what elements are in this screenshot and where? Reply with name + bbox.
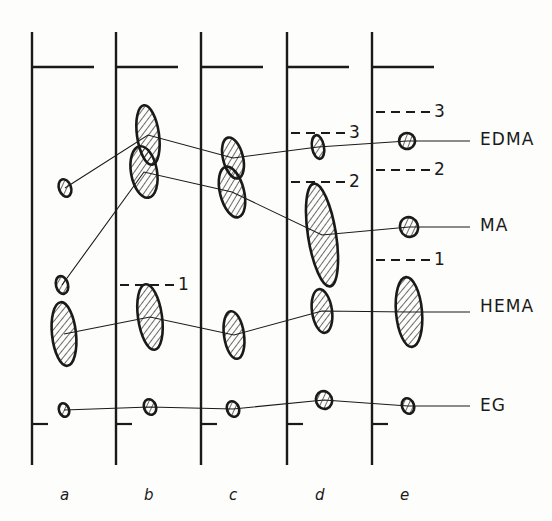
spot-MA-e — [397, 215, 421, 240]
analyte-label-hema: HEMA — [480, 296, 534, 316]
spot-EG-a — [57, 402, 71, 419]
lane-diagram-svg — [0, 0, 552, 521]
reference-dashes — [120, 112, 434, 285]
analyte-label-ma: MA — [480, 215, 509, 235]
spot-EG-b — [142, 397, 159, 416]
reference-number-e-3: 3 — [434, 101, 445, 121]
spot-group — [49, 104, 425, 419]
reference-number-d-2: 2 — [349, 171, 360, 191]
spot-HEMA-e — [393, 276, 425, 348]
spot-HEMA-b — [134, 283, 167, 352]
spot-EDMA-e — [396, 130, 417, 151]
spot-EG-e — [400, 396, 417, 415]
spot-HEMA-c — [221, 310, 247, 360]
series-connectors — [62, 135, 470, 410]
lane-label-d: d — [315, 486, 325, 504]
spot-EG-c — [225, 399, 242, 418]
reference-number-e-1: 1 — [434, 249, 445, 269]
spot-EDMA-d — [310, 134, 326, 160]
lane-label-e: e — [400, 486, 409, 504]
analyte-label-eg: EG — [480, 395, 506, 415]
spot-HEMA-a — [49, 301, 80, 367]
lane-label-c: c — [229, 486, 237, 504]
reference-number-e-2: 2 — [434, 159, 445, 179]
spot-EDMA-a — [56, 177, 73, 198]
spot-MA-c — [214, 164, 250, 220]
lane-label-b: b — [144, 486, 154, 504]
lane-label-a: a — [60, 486, 69, 504]
figure-canvas: 132321EDMAMAHEMAEGabcde — [0, 0, 552, 521]
reference-number-d-3: 3 — [349, 122, 360, 142]
spot-MA-d — [300, 181, 344, 288]
reference-number-b-1: 1 — [178, 274, 189, 294]
analyte-label-edma: EDMA — [480, 129, 535, 149]
spot-EG-d — [313, 389, 334, 411]
spot-HEMA-d — [309, 288, 335, 334]
